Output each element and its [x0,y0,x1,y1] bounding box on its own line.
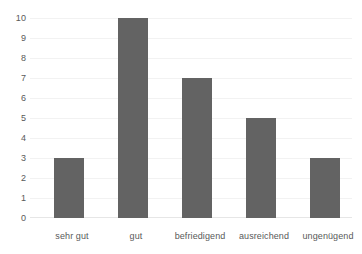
bar-chart: 10 9 8 7 6 5 4 3 2 1 0 sehr gut gut befr… [0,0,362,254]
y-tick-label: 2 [4,174,26,183]
bar [246,118,276,218]
bar [310,158,340,218]
x-axis-labels: sehr gut gut befriedigend ausreichend un… [30,231,352,245]
y-tick-label: 1 [4,194,26,203]
bar [118,18,148,218]
x-tick-label: ungenügend [283,231,362,242]
y-tick-label: 0 [4,214,26,223]
bars-group [30,18,352,218]
y-tick-label: 5 [4,114,26,123]
y-tick-label: 8 [4,54,26,63]
bar [182,78,212,218]
y-tick-label: 3 [4,154,26,163]
bar [54,158,84,218]
y-tick-label: 10 [4,14,26,23]
y-tick-label: 7 [4,74,26,83]
y-tick-label: 9 [4,34,26,43]
y-tick-label: 6 [4,94,26,103]
y-tick-label: 4 [4,134,26,143]
